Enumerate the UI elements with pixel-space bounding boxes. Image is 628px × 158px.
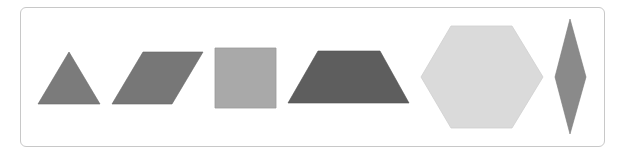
shapes-canvas [0, 0, 628, 158]
triangle-shape [38, 52, 100, 104]
hexagon-shape [421, 26, 543, 128]
square-shape [215, 48, 276, 108]
rhombus-shape [555, 19, 586, 134]
parallelogram-shape [112, 52, 203, 104]
trapezoid-shape [288, 51, 409, 103]
